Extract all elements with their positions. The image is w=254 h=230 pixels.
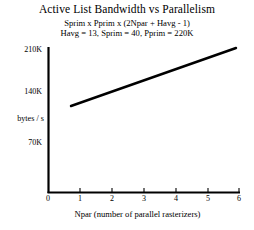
chart-figure: Active List Bandwidth vs Parallelism Spr… <box>0 0 254 230</box>
x-tick-label-6: 6 <box>231 195 247 203</box>
x-tick-label-4: 4 <box>168 195 184 203</box>
x-tick-label-3: 3 <box>136 195 152 203</box>
x-tick-label-0: 0 <box>40 195 56 203</box>
y-axis-title: bytes / s <box>0 114 44 123</box>
y-tick-label-140k: 140K <box>0 88 42 96</box>
y-tick-label-210k: 210K <box>0 46 42 54</box>
x-axis-title: Npar (number of parallel rasterizers) <box>30 209 245 219</box>
x-tick-label-1: 1 <box>72 195 88 203</box>
data-line-series-1 <box>71 48 236 106</box>
x-tick-label-2: 2 <box>104 195 120 203</box>
y-tick-label-70k: 70K <box>0 139 42 147</box>
x-tick-label-5: 5 <box>200 195 216 203</box>
